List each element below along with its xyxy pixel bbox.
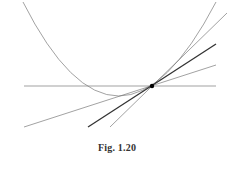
figure-caption: Fig. 1.20 [0,142,234,153]
steep-secant-line [110,13,227,127]
figure-plot [0,0,234,140]
figure: Fig. 1.20 [0,0,234,179]
parabola-curve [23,2,216,96]
tangency-point [150,84,154,88]
